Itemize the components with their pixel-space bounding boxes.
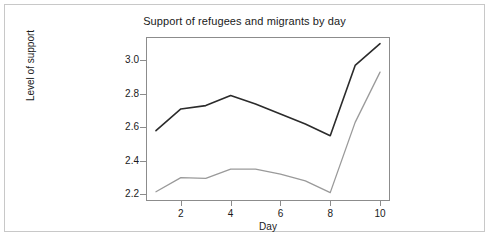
x-tick-mark	[231, 201, 232, 206]
x-tick-label: 6	[278, 208, 284, 219]
y-axis-tick-labels: 2.22.42.62.83.0	[109, 37, 139, 201]
x-tick-mark	[330, 201, 331, 206]
x-tick-label: 2	[178, 208, 184, 219]
chart-title: Support of refugees and migrants by day	[5, 15, 484, 27]
x-tick-mark	[380, 201, 381, 206]
y-axis-title: Level of support	[25, 6, 36, 126]
x-tick-label: 8	[327, 208, 333, 219]
y-tick-label: 2.6	[125, 121, 139, 132]
y-tick-label: 2.8	[125, 88, 139, 99]
x-tick-label: 4	[228, 208, 234, 219]
series-line-upper-series	[156, 44, 380, 136]
x-axis-tick-marks	[146, 201, 390, 207]
x-tick-mark	[181, 201, 182, 206]
x-tick-label: 10	[374, 208, 385, 219]
y-tick-label: 2.4	[125, 155, 139, 166]
x-axis-tick-labels: 246810	[146, 208, 390, 222]
plot-area	[146, 37, 390, 201]
plot-lines	[146, 37, 390, 201]
figure-frame: Support of refugees and migrants by day …	[4, 4, 485, 232]
x-axis-title: Day	[146, 221, 390, 232]
y-tick-label: 2.2	[125, 188, 139, 199]
x-tick-mark	[280, 201, 281, 206]
y-tick-label: 3.0	[125, 54, 139, 65]
